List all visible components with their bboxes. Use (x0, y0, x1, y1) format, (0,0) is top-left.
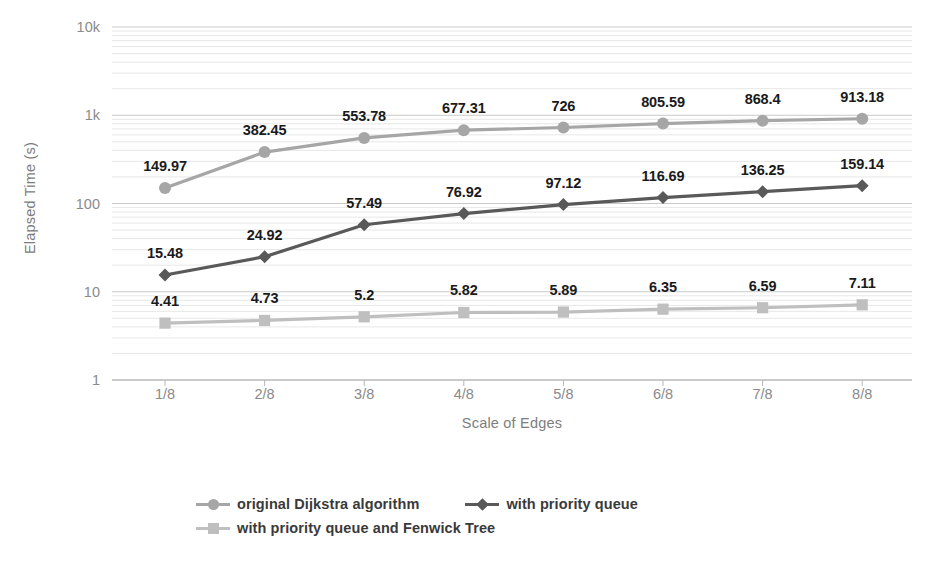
legend-item-1[interactable]: original Dijkstra algorithm (196, 496, 419, 512)
data-point-label: 4.41 (151, 293, 179, 309)
data-point-label: 5.89 (549, 282, 577, 298)
x-tick-label: 2/8 (235, 386, 295, 402)
x-tick-label: 6/8 (633, 386, 693, 402)
legend-item-2[interactable]: with priority queue (465, 496, 638, 512)
data-point-label: 868.4 (745, 91, 781, 107)
gridlines (112, 27, 912, 380)
x-tick-label: 5/8 (533, 386, 593, 402)
circle-marker (196, 496, 230, 512)
data-point-label: 97.12 (545, 175, 581, 191)
data-point-label: 5.2 (354, 287, 374, 303)
x-tick-label: 8/8 (832, 386, 892, 402)
data-point-label: 4.73 (251, 290, 279, 306)
data-point-label: 726 (551, 98, 575, 114)
data-point-label: 136.25 (741, 162, 785, 178)
data-point-label: 677.31 (442, 100, 486, 116)
data-point-label: 553.78 (342, 108, 386, 124)
data-point-label: 15.48 (147, 245, 183, 261)
data-point-label: 7.11 (849, 275, 876, 291)
legend-label: original Dijkstra algorithm (237, 496, 419, 512)
data-point-label: 149.97 (143, 158, 187, 174)
x-tick-label: 3/8 (334, 386, 394, 402)
data-point-label: 6.35 (649, 279, 677, 295)
data-point-label: 6.59 (749, 278, 777, 294)
legend-label: with priority queue and Fenwick Tree (237, 520, 495, 536)
data-point-label: 5.82 (450, 282, 478, 298)
legend-label: with priority queue (506, 496, 638, 512)
x-axis-title: Scale of Edges (112, 415, 912, 431)
x-tick-label: 1/8 (135, 386, 195, 402)
x-axis-tick-labels: 1/82/83/84/85/86/87/88/8 (0, 386, 937, 410)
data-point-label: 913.18 (840, 89, 884, 105)
data-point-label: 57.49 (346, 195, 382, 211)
diamond-marker (465, 496, 499, 512)
x-tick-label: 7/8 (733, 386, 793, 402)
legend-item-3[interactable]: with priority queue and Fenwick Tree (196, 520, 495, 536)
data-point-label: 159.14 (840, 156, 884, 172)
legend-row: original Dijkstra algorithmwith priority… (196, 492, 796, 516)
plot-area (0, 0, 937, 400)
data-point-label: 805.59 (641, 94, 685, 110)
line-chart: Elapsed Time (s) 1101001k10k 149.97382.4… (0, 0, 937, 565)
data-point-label: 382.45 (243, 122, 287, 138)
chart-legend: original Dijkstra algorithmwith priority… (196, 492, 796, 540)
data-point-label: 24.92 (247, 227, 283, 243)
legend-row: with priority queue and Fenwick Tree (196, 516, 796, 540)
square-marker (196, 520, 230, 536)
data-point-label: 76.92 (446, 184, 482, 200)
data-point-label: 116.69 (642, 168, 685, 184)
x-tick-label: 4/8 (434, 386, 494, 402)
